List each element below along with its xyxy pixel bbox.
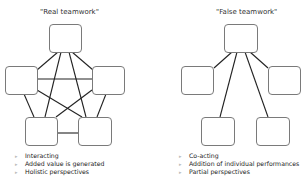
bullet-icon: ▸	[15, 168, 18, 176]
team-member-node	[25, 117, 58, 146]
team-member-node	[92, 66, 125, 95]
bullet-item: ▸Partial perspectives	[179, 168, 299, 176]
bullet-item: ▸Interacting	[15, 152, 104, 160]
team-member-node	[181, 66, 214, 95]
bullet-icon: ▸	[179, 160, 182, 168]
bullet-icon: ▸	[15, 152, 18, 160]
team-member-node	[5, 66, 38, 95]
bullet-item: ▸Holistic perspectives	[15, 168, 104, 176]
false-teamwork-bullets: ▸Co-acting ▸Addition of individual perfo…	[179, 152, 299, 176]
bullet-icon: ▸	[15, 160, 18, 168]
false-teamwork-title: "False teamwork"	[216, 8, 277, 16]
real-teamwork-title: "Real teamwork"	[40, 8, 99, 16]
team-member-node	[49, 24, 82, 53]
team-member-node	[224, 24, 258, 53]
team-member-node	[268, 66, 301, 95]
team-member-node	[256, 117, 290, 146]
team-member-node	[78, 117, 112, 146]
team-member-node	[201, 117, 235, 146]
bullet-item: ▸Added value is generated	[15, 160, 104, 168]
bullet-item: ▸Co-acting	[179, 152, 299, 160]
bullet-item: ▸Addition of individual performances	[179, 160, 299, 168]
bullet-icon: ▸	[179, 168, 182, 176]
bullet-icon: ▸	[179, 152, 182, 160]
real-teamwork-bullets: ▸Interacting ▸Added value is generated ▸…	[15, 152, 104, 176]
